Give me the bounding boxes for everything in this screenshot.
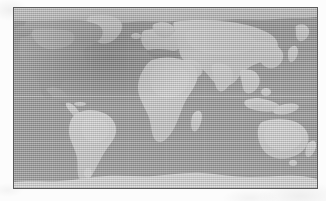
screenshot-canvas <box>0 0 326 201</box>
antarctic-peninsula <box>84 168 92 178</box>
world-map-image <box>14 8 317 188</box>
borneo <box>250 98 264 108</box>
world-map-svg <box>14 8 317 188</box>
iceland <box>131 33 141 39</box>
tasmania <box>289 160 297 166</box>
philippines <box>261 88 271 96</box>
world-map-frame <box>13 7 318 189</box>
caribbean-islands <box>74 102 86 106</box>
